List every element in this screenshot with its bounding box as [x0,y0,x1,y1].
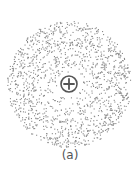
electron-cloud-diagram [0,0,140,172]
nucleus-positive-charge-icon [61,76,77,92]
figure-caption: (a) [0,148,140,162]
